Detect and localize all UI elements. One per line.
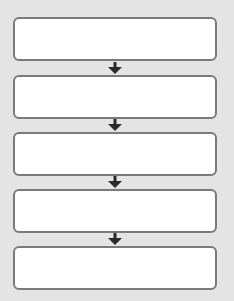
flow-step-4 bbox=[13, 189, 217, 233]
arrow-down-icon bbox=[108, 176, 122, 189]
flow-step-5 bbox=[13, 246, 217, 290]
arrow-down-icon bbox=[108, 233, 122, 246]
flow-step-1 bbox=[13, 17, 217, 61]
flow-step-3 bbox=[13, 132, 217, 176]
flow-step-2 bbox=[13, 75, 217, 119]
arrow-down-icon bbox=[108, 119, 122, 132]
arrow-down-icon bbox=[108, 62, 122, 75]
